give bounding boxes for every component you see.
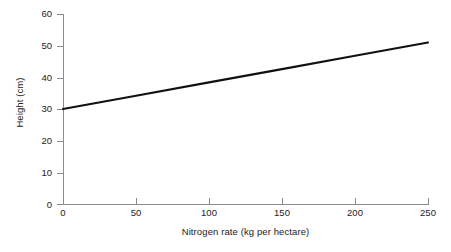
plot-area <box>0 0 451 252</box>
chart-figure: Height (cm) 60 50 40 30 20 10 0 0 50 100… <box>0 0 451 252</box>
x-axis-title: Nitrogen rate (kg per hectare) <box>63 226 428 237</box>
data-series-line <box>63 43 428 110</box>
